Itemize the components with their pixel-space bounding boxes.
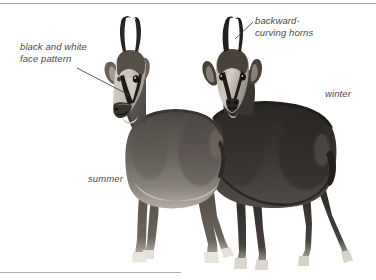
bottom-divider-rule: [0, 272, 181, 273]
label-winter: winter: [325, 88, 351, 100]
label-backward-curving-horns: backward- curving horns: [255, 15, 313, 39]
summer-chamois: [105, 16, 234, 263]
winter-chamois: [202, 17, 353, 270]
label-summer: summer: [88, 173, 123, 185]
illustration-page: black and white face pattern backward- c…: [0, 0, 376, 280]
horns-leader: [235, 22, 253, 39]
label-face-pattern: black and white face pattern: [20, 41, 87, 65]
